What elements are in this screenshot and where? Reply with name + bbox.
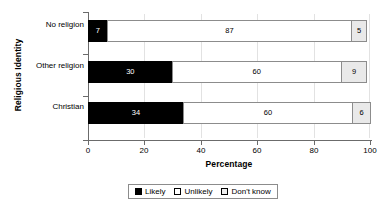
- legend-label-dont-know: Don't know: [231, 187, 270, 196]
- stacked-bar-chart: Religious Identity No religion Other rel…: [0, 0, 385, 213]
- bar-segment-unlikely: 60: [183, 102, 353, 124]
- x-axis-tick-80: [314, 141, 315, 145]
- legend-item-likely: Likely: [135, 187, 165, 196]
- bar-segment-dont-know: 5: [351, 20, 367, 42]
- x-axis-label-0: 0: [73, 146, 103, 155]
- bar-segment-dont-know: 9: [341, 61, 367, 83]
- x-axis-tick-20: [144, 141, 145, 145]
- x-axis-label-60: 60: [242, 146, 272, 155]
- black-square-swatch-icon: [135, 188, 142, 195]
- gray-square-swatch-icon: [221, 188, 228, 195]
- x-axis-label-40: 40: [186, 146, 216, 155]
- legend-item-unlikely: Unlikely: [174, 187, 212, 196]
- y-axis-tick-top: [83, 12, 88, 13]
- y-axis-category-labels: No religion Other religion Christian: [18, 14, 84, 138]
- bar-segment-likely: 30: [88, 61, 173, 83]
- x-axis-line: [86, 140, 372, 141]
- bar-segment-unlikely: 87: [107, 20, 352, 42]
- x-axis-label-100: 100: [355, 146, 385, 155]
- white-square-swatch-icon: [174, 188, 181, 195]
- x-axis-tick-0: [88, 141, 89, 145]
- legend-label-unlikely: Unlikely: [184, 187, 212, 196]
- legend-label-likely: Likely: [145, 187, 165, 196]
- bar-other-religion: 30 60 9: [88, 61, 367, 83]
- legend-item-dont-know: Don't know: [221, 187, 270, 196]
- bar-segment-unlikely: 60: [172, 61, 342, 83]
- plot-area: 7 87 5 30 60 9 34 60 6: [88, 14, 370, 138]
- x-axis-title: Percentage: [88, 159, 370, 169]
- y-axis-label-no-religion: No religion: [18, 20, 84, 29]
- x-axis-tick-100: [370, 141, 371, 145]
- y-axis-label-christian: Christian: [18, 102, 84, 111]
- bar-segment-likely: 7: [88, 20, 108, 42]
- bar-christian: 34 60 6: [88, 102, 371, 124]
- chart-legend: Likely Unlikely Don't know: [128, 184, 278, 199]
- bar-segment-dont-know: 6: [352, 102, 371, 124]
- y-axis-label-other-religion: Other religion: [18, 61, 84, 70]
- x-axis-tick-40: [201, 141, 202, 145]
- bar-segment-likely: 34: [88, 102, 184, 124]
- bar-no-religion: 7 87 5: [88, 20, 367, 42]
- x-axis-tick-60: [257, 141, 258, 145]
- x-axis-label-20: 20: [129, 146, 159, 155]
- x-axis-label-80: 80: [299, 146, 329, 155]
